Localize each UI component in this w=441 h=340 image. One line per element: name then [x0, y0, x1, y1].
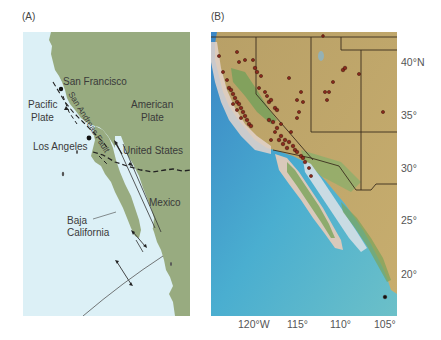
san-francisco-label: San Francisco [63, 76, 127, 87]
american-plate-label-2: Plate [141, 112, 164, 123]
panel-a-label: (A) [22, 11, 35, 22]
lon-label-105: 105° [374, 318, 396, 330]
panel-b-map [211, 32, 397, 316]
pacific-plate-label-2: Plate [31, 112, 54, 123]
los-angeles-dot [87, 136, 92, 141]
baja-label-2: California [67, 227, 110, 238]
mexico-label: Mexico [149, 197, 181, 208]
lat-label-20: 20° [401, 268, 417, 280]
lon-label-115: 115° [287, 318, 308, 330]
san-francisco-dot [59, 87, 63, 91]
lon-label-120: 120°W [238, 318, 270, 330]
panel-a-map: San Francisco Pacific Plate American Pla… [23, 32, 190, 316]
lon-label-110: 110° [330, 318, 351, 330]
lat-label-25: 25° [401, 214, 417, 226]
american-plate-label-1: American [131, 99, 173, 110]
lat-label-30: 30° [401, 162, 417, 174]
united-states-label: United States [123, 145, 183, 156]
panel-b-label: (B) [211, 11, 224, 22]
lat-label-40: 40°N [401, 56, 424, 68]
lat-label-35: 35° [401, 109, 417, 121]
pacific-plate-label-1: Pacific [28, 99, 57, 110]
baja-label-1: Baja [67, 215, 87, 226]
los-angeles-label: Los Angeles [33, 141, 88, 152]
